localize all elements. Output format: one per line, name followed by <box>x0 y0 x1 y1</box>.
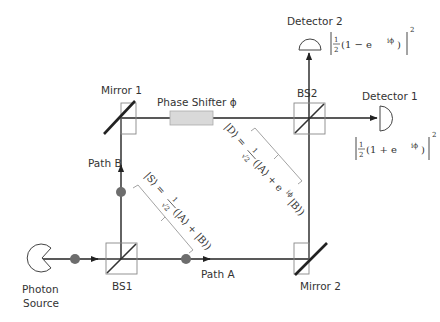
mach-zehnder-diagram: Photon Source BS1 BS2 Mirror 1 Mirror 2 … <box>0 0 440 322</box>
photon-source-icon <box>27 244 51 272</box>
label-detector-2: Detector 2 <box>287 15 343 27</box>
bracket-state-d-tick <box>274 155 278 159</box>
photon-dot-path-a <box>181 254 191 264</box>
label-photon-source-1: Photon <box>22 283 59 295</box>
equation-state-s: |S⟩ = 1 √2 (|A⟩ + |B⟩) <box>137 169 217 255</box>
label-bs1: BS1 <box>112 280 132 292</box>
bracket-state-s-tick <box>161 217 165 221</box>
label-bs2: BS2 <box>297 87 317 99</box>
label-phase-shifter: Phase Shifter ϕ <box>157 96 237 108</box>
svg-text:(|A⟩ + |B⟩): (|A⟩ + |B⟩) <box>170 206 214 252</box>
svg-text:1: 1 <box>334 36 338 44</box>
label-mirror-2: Mirror 2 <box>300 280 341 292</box>
phase-shifter <box>170 111 213 125</box>
svg-text:): ) <box>421 144 425 155</box>
svg-text:2: 2 <box>410 26 414 34</box>
label-detector-1: Detector 1 <box>362 90 418 102</box>
svg-text:2: 2 <box>334 46 338 54</box>
svg-text:(|A⟩ + e: (|A⟩ + e <box>250 157 285 194</box>
svg-text:): ) <box>397 39 401 50</box>
detector-2-probability: 1 2 (1 − e iϕ ) 2 <box>331 26 414 55</box>
svg-text:√2: √2 <box>239 152 251 164</box>
svg-text:1: 1 <box>170 195 179 204</box>
svg-text:1: 1 <box>359 141 363 149</box>
equation-state-d: |D⟩ = 1 √2 (|A⟩ + e iϕ |B⟩) <box>217 120 311 221</box>
beam-paths <box>42 53 377 259</box>
svg-text:|S⟩ =: |S⟩ = <box>142 170 168 197</box>
svg-text:|B⟩): |B⟩) <box>286 197 307 219</box>
svg-text:2: 2 <box>359 151 363 159</box>
detector-1-probability: 1 2 (1 + e iϕ ) 2 <box>356 131 436 160</box>
svg-text:|D⟩ =: |D⟩ = <box>222 121 249 149</box>
photon-dot-path-b <box>116 187 126 197</box>
svg-text:iϕ: iϕ <box>411 142 418 150</box>
photon-dot-input <box>70 254 80 264</box>
svg-text:(1 + e: (1 + e <box>366 144 397 155</box>
label-photon-source-2: Source <box>23 297 59 309</box>
label-path-a: Path A <box>201 268 235 280</box>
svg-text:√2: √2 <box>159 201 171 213</box>
svg-text:(1 − e: (1 − e <box>341 39 372 50</box>
label-path-b: Path B <box>88 157 122 169</box>
svg-text:iϕ: iϕ <box>387 37 394 45</box>
svg-text:1: 1 <box>250 146 259 155</box>
svg-text:2: 2 <box>432 131 436 139</box>
detector-1-icon <box>380 106 393 131</box>
label-mirror-1: Mirror 1 <box>101 84 142 96</box>
detector-2-icon <box>299 39 321 50</box>
